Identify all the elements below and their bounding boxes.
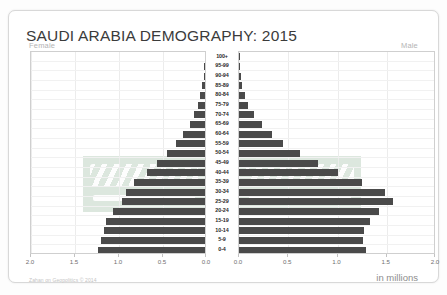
axis-tick xyxy=(287,254,288,257)
bar-male xyxy=(239,198,393,205)
age-group-label: 55-59 xyxy=(206,140,238,146)
age-group-label: 25-29 xyxy=(206,198,238,204)
bar-female xyxy=(183,131,205,138)
bar-female xyxy=(200,92,205,99)
age-group-label: 100+ xyxy=(206,53,238,59)
chart-card: SAUDI ARABIA DEMOGRAPHY: 2015 Female Mal… xyxy=(8,10,439,283)
bar-female xyxy=(113,208,205,215)
age-group-axis: 100+95-9990-9485-8980-8475-7970-7465-696… xyxy=(206,51,238,254)
bar-male xyxy=(239,82,242,89)
row-separator xyxy=(239,225,434,226)
row-separator xyxy=(239,215,434,216)
female-plot-panel xyxy=(30,51,206,254)
bar-female xyxy=(198,102,205,109)
bar-male xyxy=(239,131,272,138)
bar-male xyxy=(239,73,241,80)
male-side-label: Male xyxy=(401,41,418,50)
row-separator xyxy=(31,138,205,139)
bar-female xyxy=(190,121,205,128)
female-side-label: Female xyxy=(29,41,55,50)
bar-male xyxy=(239,189,385,196)
bar-female xyxy=(106,218,205,225)
age-group-label: 60-64 xyxy=(206,130,238,136)
page-title: SAUDI ARABIA DEMOGRAPHY: 2015 xyxy=(26,27,297,45)
screenshot-root: SAUDI ARABIA DEMOGRAPHY: 2015 Female Mal… xyxy=(0,0,447,295)
bar-male xyxy=(239,247,366,254)
axis-tick xyxy=(162,254,163,257)
row-separator xyxy=(31,177,205,178)
bar-male xyxy=(239,169,338,176)
axis-tick-label: 0.0 xyxy=(234,258,243,265)
gridline xyxy=(387,52,388,253)
axis-tick-label: 1.0 xyxy=(332,258,341,265)
age-group-label: 90-94 xyxy=(206,72,238,78)
age-group-label: 95-99 xyxy=(206,62,238,68)
row-separator xyxy=(31,244,205,245)
row-separator xyxy=(239,206,434,207)
age-group-label: 50-54 xyxy=(206,149,238,155)
row-separator xyxy=(239,80,434,81)
age-group-label: 15-19 xyxy=(206,217,238,223)
row-separator xyxy=(239,157,434,158)
age-group-label: 0-4 xyxy=(206,246,238,252)
row-separator xyxy=(31,90,205,91)
row-separator xyxy=(239,70,434,71)
bar-male xyxy=(239,179,362,186)
row-separator xyxy=(239,119,434,120)
row-separator xyxy=(239,196,434,197)
row-separator xyxy=(31,206,205,207)
row-separator xyxy=(31,167,205,168)
bar-male xyxy=(239,111,254,118)
bar-male xyxy=(239,237,363,244)
row-separator xyxy=(239,235,434,236)
axis-tick xyxy=(386,254,387,257)
bar-female xyxy=(204,73,205,80)
age-group-label: 85-89 xyxy=(206,82,238,88)
bar-male xyxy=(239,160,318,167)
axis-tick xyxy=(434,254,435,257)
bar-male xyxy=(239,227,364,234)
row-separator xyxy=(31,235,205,236)
axis-tick xyxy=(74,254,75,257)
row-separator xyxy=(239,244,434,245)
bar-female xyxy=(202,82,205,89)
female-x-axis: 2.01.51.00.50.0 xyxy=(30,254,206,270)
row-separator xyxy=(31,80,205,81)
bar-male xyxy=(239,121,262,128)
row-separator xyxy=(31,215,205,216)
row-separator xyxy=(239,99,434,100)
age-group-label: 75-79 xyxy=(206,101,238,107)
bar-male xyxy=(239,92,245,99)
male-x-axis: 0.00.51.01.52.0 xyxy=(238,254,435,270)
axis-tick-label: 0.5 xyxy=(283,258,292,265)
age-group-label: 5-9 xyxy=(206,236,238,242)
axis-tick xyxy=(118,254,119,257)
bar-female xyxy=(157,160,205,167)
row-separator xyxy=(239,90,434,91)
row-separator xyxy=(31,225,205,226)
bar-male xyxy=(239,150,300,157)
age-group-label: 30-34 xyxy=(206,188,238,194)
age-group-label: 35-39 xyxy=(206,178,238,184)
row-separator xyxy=(31,119,205,120)
bar-female xyxy=(101,237,205,244)
bar-female xyxy=(147,169,205,176)
age-group-label: 40-44 xyxy=(206,169,238,175)
bar-female xyxy=(98,247,205,254)
age-group-label: 20-24 xyxy=(206,207,238,213)
credit-label: Zahan on Geopolitics © 2014 xyxy=(29,277,97,283)
bar-male xyxy=(239,208,379,215)
row-separator xyxy=(31,196,205,197)
bar-female xyxy=(194,111,205,118)
bar-male xyxy=(239,140,283,147)
bar-male xyxy=(239,102,248,109)
row-separator xyxy=(31,186,205,187)
bar-female xyxy=(126,189,205,196)
row-separator xyxy=(239,177,434,178)
axis-tick-label: 2.0 xyxy=(431,258,440,265)
axis-tick xyxy=(337,254,338,257)
bar-female xyxy=(176,140,205,147)
axis-tick-label: 0.5 xyxy=(158,258,167,265)
units-label: in millions xyxy=(376,272,418,283)
bar-female xyxy=(104,227,205,234)
